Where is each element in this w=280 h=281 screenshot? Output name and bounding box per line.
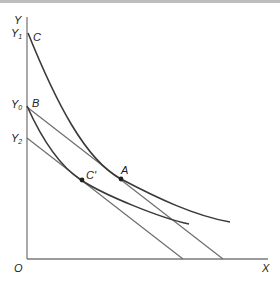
indifference-curve-c [28,33,230,222]
indifference-curve-b [27,106,189,224]
x-axis-label: X [261,262,270,274]
point-c-prime-label: C' [86,169,97,181]
y2-label: Y2 [11,132,22,145]
curve-c-label: C [33,31,41,43]
point-b-label: B [32,97,39,109]
y-axis-label: Y [14,14,22,26]
y1-label: Y1 [11,27,22,40]
point-a-label: A [120,164,128,176]
indifference-curve-diagram: Y X O Y1 Y0 Y2 C B A C' [0,0,280,281]
origin-label: O [14,262,23,274]
budget-line-y0 [27,107,223,259]
point-a-marker [119,177,124,182]
point-c-prime-marker [80,178,85,183]
y0-label: Y0 [11,98,22,111]
